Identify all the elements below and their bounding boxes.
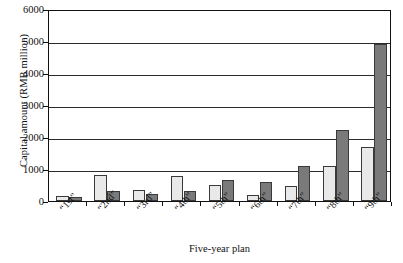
bar-chart-figure: Capital amount (RMB million) 01000200030… bbox=[0, 0, 403, 263]
x-axis-tick-label: “7th” bbox=[286, 190, 309, 213]
x-axis-tick-label: “2nd” bbox=[95, 188, 119, 213]
x-axis-tick-labels: “1st”“2nd”“3rd”“4th”“5th”“6th”“7th”“8th”… bbox=[0, 0, 403, 263]
x-axis-tick-label: “9th” bbox=[362, 190, 385, 213]
x-axis-tick-label: “5th” bbox=[210, 190, 233, 213]
x-axis-tick-label: “1st” bbox=[57, 191, 79, 214]
x-axis-tick-label: “8th” bbox=[324, 190, 347, 213]
x-axis-title: Five-year plan bbox=[48, 243, 391, 254]
x-axis-tick-label: “4th” bbox=[172, 190, 195, 213]
x-axis-tick-label: “3rd” bbox=[134, 189, 157, 213]
x-axis-tick-label: “6th” bbox=[248, 190, 271, 213]
